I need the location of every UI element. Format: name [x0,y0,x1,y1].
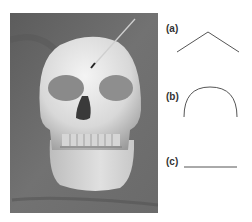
label-b: (b) [166,91,179,102]
shape-a-chevron [177,32,239,52]
shape-b-arc [184,87,237,117]
label-c: (c) [166,156,178,167]
label-a: (a) [166,23,178,34]
shape-panels [0,0,252,222]
